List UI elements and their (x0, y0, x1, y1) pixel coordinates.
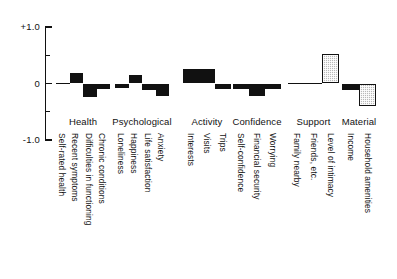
item-label-psychological-0: Loneliness (117, 133, 125, 174)
item-label-activity-2: Trips (218, 133, 226, 152)
item-label-confidence-1: Financial security (252, 133, 260, 200)
bar-health-3 (97, 84, 111, 90)
y-tick-label-0: +1.0 (0, 21, 40, 32)
bar-health-2 (83, 84, 97, 98)
bar-psychological-2 (142, 84, 156, 91)
item-label-material-0: Income (346, 133, 354, 161)
bar-material-1 (359, 84, 376, 107)
item-label-health-1: Recent symptoms (71, 133, 79, 202)
bar-activity-2 (215, 84, 231, 90)
item-label-confidence-0: Self-confidence (236, 133, 244, 192)
item-label-health-3: Chronic conditions (98, 133, 106, 204)
chart-root: +1.00-1.0 HealthPsychologicalActivityCon… (0, 0, 397, 279)
bar-support-0 (288, 83, 305, 84)
item-label-health-2: Difficulties in functioning (85, 133, 93, 225)
bar-health-1 (70, 73, 84, 83)
bar-psychological-3 (156, 84, 170, 96)
item-label-support-1: Friends, etc. (309, 133, 317, 180)
item-label-psychological-2: Life satisfaction (144, 133, 152, 192)
y-tick-label-2: 0 (0, 78, 40, 89)
item-label-psychological-3: Anxiety (157, 133, 165, 161)
bar-confidence-2 (265, 84, 281, 90)
bar-material-0 (342, 84, 359, 91)
bar-support-2 (322, 54, 339, 83)
bar-confidence-1 (249, 84, 265, 96)
item-label-psychological-1: Happiness (130, 133, 138, 173)
group-caption-material: Material (320, 116, 397, 127)
item-label-health-0: Self-rated health (58, 133, 66, 196)
item-label-support-2: Level of intimacy (326, 133, 334, 197)
item-label-activity-1: Visits (202, 133, 210, 153)
bar-confidence-0 (233, 84, 249, 90)
bar-psychological-0 (115, 84, 129, 89)
bar-activity-1 (199, 69, 215, 84)
bar-activity-0 (183, 69, 199, 84)
y-tick-label-4: -1.0 (0, 134, 40, 145)
item-label-activity-0: Interests (186, 133, 194, 166)
bar-health-0 (56, 83, 70, 84)
item-label-material-1: Household amenities (363, 133, 371, 213)
bar-support-1 (305, 83, 322, 84)
item-label-confidence-2: Worrying (268, 133, 276, 167)
item-label-support-0: Family nearby (292, 133, 300, 187)
bar-psychological-1 (129, 75, 143, 83)
